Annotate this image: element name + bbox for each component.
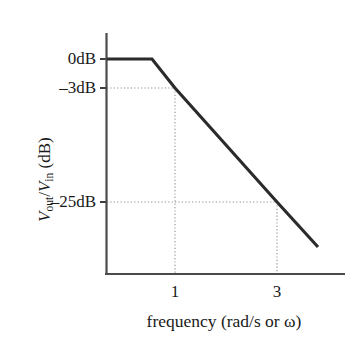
x-axis-title: frequency (rad/s or ω) [99,313,349,331]
y-axis-title-v-out-symbol: V [35,212,54,222]
y-axis-title-v-out-subscript: out [43,197,56,212]
bode-plot-figure: 0dB –3dB –25dB 1 3 Vout/Vin (dB) frequen… [0,0,359,354]
y-tick-label-3db: –3dB [38,79,96,96]
x-tick-label-3: 3 [261,283,293,300]
y-tick-label-0db: 0dB [38,50,96,67]
response-curve [107,59,318,247]
y-axis-title-v-in-subscript: in [43,173,56,182]
guide-lines [107,88,277,274]
y-axis-title-units: (dB) [35,137,54,172]
low-pass-response-line [107,59,318,247]
y-axis-title: Vout/Vin (dB) [36,137,56,222]
y-axis-title-slash: / [35,192,54,197]
y-axis-title-v-in-symbol: V [35,182,54,192]
x-tick-label-1: 1 [159,283,191,300]
